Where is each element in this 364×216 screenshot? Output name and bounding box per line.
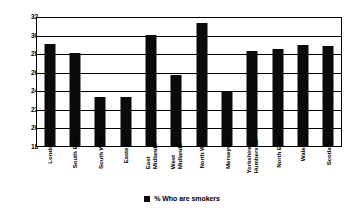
bar xyxy=(44,44,55,146)
bar-slot xyxy=(113,18,138,146)
bar-slot xyxy=(189,18,214,146)
x-axis-category-labels: LondonSouth EastSouth WestEasternEast Mi… xyxy=(37,149,341,194)
bar xyxy=(171,75,182,146)
y-axis-tick-32: 32 xyxy=(14,13,38,20)
bar xyxy=(297,45,308,146)
bar-series xyxy=(37,18,341,146)
bar-slot xyxy=(62,18,87,146)
bar xyxy=(247,51,258,146)
y-axis-tick-24: 24 xyxy=(14,87,38,94)
bar-slot xyxy=(290,18,315,146)
legend-label: % Who are smokers xyxy=(154,195,220,203)
bar-slot xyxy=(214,18,239,146)
y-axis-tick-28: 28 xyxy=(14,50,38,57)
bar xyxy=(272,49,283,146)
y-axis-tick-22: 22 xyxy=(14,106,38,113)
legend-swatch-icon xyxy=(144,196,150,202)
y-axis-tick-30: 30 xyxy=(14,32,38,39)
bar xyxy=(69,53,80,146)
bar-slot xyxy=(240,18,265,146)
bar-slot xyxy=(316,18,341,146)
x-axis-label-text: Scotland xyxy=(325,140,332,165)
bar-slot xyxy=(88,18,113,146)
bar-chart: 1820222426283032 LondonSouth EastSouth W… xyxy=(0,0,364,216)
x-axis-label: Scotland xyxy=(305,149,351,193)
bar xyxy=(120,97,131,146)
bar-slot xyxy=(37,18,62,146)
bar-slot xyxy=(164,18,189,146)
bar xyxy=(323,46,334,146)
chart-legend: % Who are smokers xyxy=(0,195,364,203)
y-axis-tick-26: 26 xyxy=(14,69,38,76)
bar xyxy=(196,23,207,146)
y-axis-tick-20: 20 xyxy=(14,124,38,131)
bar xyxy=(145,35,156,146)
bar-slot xyxy=(265,18,290,146)
bar-slot xyxy=(138,18,163,146)
